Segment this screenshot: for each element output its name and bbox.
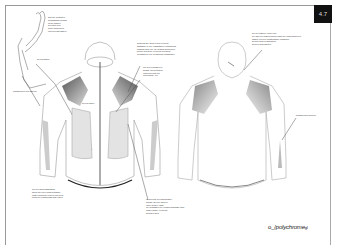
annotation-hem-left: nur der ärmelabschluss kaum an einer nic… [32,188,88,199]
front-jacket [40,42,160,200]
annotation-back-head: bei der kapuze oben rum die lage der kap… [252,32,322,46]
annotation-hood-detail: aus der seitlichen betrachtung kommt die… [48,16,78,33]
logo-prefix: o_/ [268,224,276,230]
annotation-hem-center: im bereich der bauchpartie anlage ist ei… [146,198,198,215]
annotation-hood-size: 10 cm abpull [37,58,57,61]
back-jacket [178,42,296,188]
annotation-shoulder: nur den reguläreren anlage zur benutzen … [143,66,171,77]
annotation-cuff-left: zuführung in den ärmeln [13,90,53,93]
logo-suffix: gl [305,225,308,230]
annotation-zip: 10 cm zipper [82,102,98,105]
annotation-back-sleeve: zwischenzeit ärmeln [296,114,322,117]
logo-text: polychrome [276,224,305,230]
annotation-center-top: auch hat sie auch jedes element abstände… [137,42,182,56]
brand-logo: o_/polychromegl [268,224,307,230]
